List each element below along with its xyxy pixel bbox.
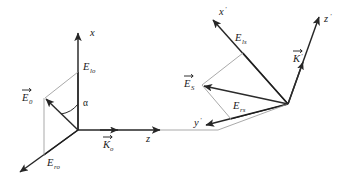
E-S-label-base: E bbox=[183, 78, 191, 89]
alpha-angle-label: α bbox=[83, 98, 88, 108]
E-lo-label-base: E bbox=[82, 61, 90, 72]
E-lo-label-subscript: lo bbox=[90, 67, 96, 74]
K-prime-label-mark: ′ bbox=[301, 52, 303, 59]
K-prime-label: K ′ bbox=[292, 49, 303, 64]
K-prime-label-base: K bbox=[292, 53, 301, 64]
x-prime-label-base: x bbox=[218, 6, 224, 17]
E-ro-label-subscript: ro bbox=[54, 163, 60, 170]
E-rs-label-base: E bbox=[232, 100, 240, 111]
E-rs-label-subscript: rs bbox=[240, 106, 246, 113]
E-ro-label-base: E bbox=[46, 157, 54, 168]
E-0-label-base: E bbox=[21, 92, 29, 103]
construction-baseline-link bbox=[160, 104, 288, 130]
left-coordinate-system: x z E lo E ro E 0 K o bbox=[20, 27, 160, 172]
z-prime-axis-label: z ′ bbox=[323, 12, 332, 24]
construction-line-elo-e0 bbox=[45, 72, 78, 98]
E-S-label: E S bbox=[183, 74, 195, 91]
E-rs-label: E rs bbox=[232, 100, 246, 113]
z-axis-label: z bbox=[145, 133, 150, 144]
E-ro-label: E ro bbox=[46, 157, 60, 170]
construction-line-ers-es bbox=[202, 85, 231, 119]
figure-canvas: x z E lo E ro E 0 K o bbox=[0, 0, 339, 183]
E-0-label-subscript: 0 bbox=[29, 98, 33, 105]
alpha-angle-arc bbox=[61, 104, 78, 114]
E-ls-label-base: E bbox=[234, 32, 242, 43]
construction-line-els-es bbox=[202, 53, 243, 85]
vector-diagram-figure: x z E lo E ro E 0 K o bbox=[0, 0, 339, 183]
x-axis-label: x bbox=[89, 27, 95, 38]
E-S-vector-line bbox=[204, 86, 288, 104]
y-prime-label-mark: ′ bbox=[200, 116, 202, 123]
z-prime-label-base: z bbox=[323, 13, 328, 24]
y-prime-axis-label: y ′ bbox=[193, 116, 202, 128]
E-ls-label: E ls bbox=[234, 32, 247, 45]
y-prime-label-base: y bbox=[193, 117, 199, 128]
E-S-label-subscript: S bbox=[191, 84, 195, 91]
K-prime-vector-line bbox=[288, 62, 303, 104]
E-0-vector-line bbox=[46, 99, 78, 130]
K-o-label: K o bbox=[102, 135, 114, 152]
E-ls-label-subscript: ls bbox=[242, 38, 247, 45]
K-o-label-subscript: o bbox=[110, 145, 114, 152]
E-lo-label: E lo bbox=[82, 61, 96, 74]
z-prime-label-mark: ′ bbox=[330, 12, 332, 19]
x-prime-label-mark: ′ bbox=[225, 5, 227, 12]
E-ro-component-line bbox=[44, 130, 78, 155]
E-0-label: E 0 bbox=[21, 88, 33, 105]
right-coordinate-system: x ′ z ′ y ′ E ls E rs bbox=[160, 5, 332, 130]
x-prime-axis-label: x ′ bbox=[218, 5, 227, 17]
